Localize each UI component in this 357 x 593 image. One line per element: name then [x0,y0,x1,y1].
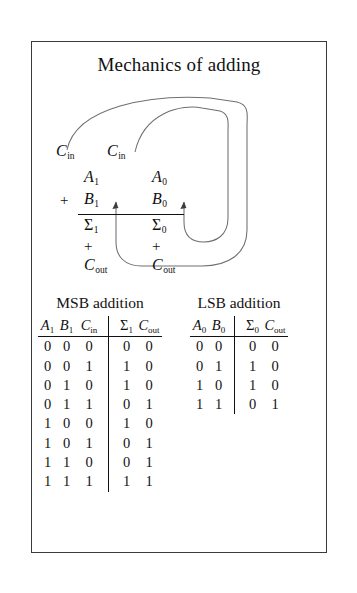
lsb-truth-table: A0 B0 Σ0 Cout 0 [190,316,288,414]
sum-rule-line [78,214,184,215]
cell-cin: 0 [76,414,109,433]
cell-a: 0 [38,376,57,395]
table-row: 1 0 0 1 0 [38,414,162,433]
cell-b: 1 [57,472,76,491]
carry-in-lsb-label: Cin [107,142,125,160]
table-row: 0 0 0 0 [190,337,288,357]
msb-header-cout: Cout [136,316,162,337]
msb-table-body: 0 0 0 0 0 0 0 1 1 0 0 1 [38,337,162,492]
inner-carry-arrow [135,107,228,242]
cell-sum: 0 [109,453,137,472]
msb-header-sum: Σ1 [109,316,137,337]
cell-b: 0 [57,337,76,357]
carry-out-msb-label: Cout [84,256,107,274]
cell-cout: 1 [136,395,162,414]
table-row: 0 0 0 0 0 [38,337,162,357]
cell-b: 0 [57,434,76,453]
operand-b-lsb-label: B0 [152,190,167,208]
cell-a: 0 [38,337,57,357]
msb-header-a: A1 [38,316,57,337]
table-row: 1 1 1 1 1 [38,472,162,491]
carry-plus-lsb: + [152,238,160,255]
figure-title: Mechanics of adding [32,54,326,76]
cell-a: 0 [190,357,209,376]
cell-cin: 0 [76,453,109,472]
msb-table-caption: MSB addition [38,294,162,312]
cell-sum: 0 [235,337,263,357]
msb-header-cin: Cin [76,316,109,337]
operand-b-msb-label: B1 [84,190,99,208]
cell-cin: 1 [76,395,109,414]
lsb-header-sum: Σ0 [235,316,263,337]
msb-header-row: A1 B1 Cin Σ1 Cout [38,316,162,337]
lsb-table-caption: LSB addition [190,294,288,312]
table-row: 1 1 0 0 1 [38,453,162,472]
table-row: 1 0 1 0 1 [38,434,162,453]
cell-sum: 1 [235,376,263,395]
cell-b: 0 [209,376,235,395]
cell-b: 0 [209,337,235,357]
cell-cout: 0 [136,337,162,357]
lsb-header-cout: Cout [262,316,288,337]
cell-a: 1 [38,434,57,453]
carry-out-lsb-label: Cout [152,256,175,274]
table-row: 0 1 1 0 [190,357,288,376]
figure-frame: Mechanics of adding Cin Cin A1 A0 [31,41,327,553]
table-row: 0 1 0 1 0 [38,376,162,395]
table-row: 0 0 1 1 0 [38,357,162,376]
cell-b: 1 [209,357,235,376]
cell-cout: 0 [136,376,162,395]
cell-sum: 0 [109,337,137,357]
cell-a: 1 [38,472,57,491]
cell-b: 1 [57,395,76,414]
cell-cout: 1 [136,453,162,472]
cell-cout: 1 [136,472,162,491]
cell-cin: 0 [76,376,109,395]
cell-b: 1 [57,376,76,395]
cell-a: 0 [38,357,57,376]
lsb-table-header: A0 B0 Σ0 Cout [190,316,288,337]
truth-tables-area: MSB addition A1 B1 Cin Σ1 [32,294,328,549]
lsb-table-body: 0 0 0 0 0 1 1 0 1 0 1 0 [190,337,288,415]
carry-propagation-arrows [32,90,328,295]
msb-header-b: B1 [57,316,76,337]
cell-sum: 0 [235,395,263,414]
table-row: 1 0 1 0 [190,376,288,395]
cell-cin: 0 [76,337,109,357]
lsb-header-a: A0 [190,316,209,337]
cell-sum: 1 [235,357,263,376]
operand-a-msb-label: A1 [84,168,99,186]
sum-lsb-label: Σ0 [152,216,166,234]
cell-b: 1 [209,395,235,414]
cell-cin: 1 [76,472,109,491]
cell-cout: 0 [262,337,288,357]
lsb-header-row: A0 B0 Σ0 Cout [190,316,288,337]
cell-cin: 1 [76,357,109,376]
cell-cout: 0 [262,376,288,395]
cell-b: 1 [57,453,76,472]
cell-a: 1 [38,453,57,472]
mechanics-of-adding-diagram: Cin Cin A1 A0 + B1 B0 Σ1 Σ0 + + [32,90,328,295]
msb-addition-table-block: MSB addition A1 B1 Cin Σ1 [38,294,162,492]
cell-cout: 1 [136,434,162,453]
msb-table-header: A1 B1 Cin Σ1 Cout [38,316,162,337]
lsb-header-b: B0 [209,316,235,337]
cell-b: 0 [57,357,76,376]
cell-a: 0 [190,337,209,357]
cell-cout: 0 [262,357,288,376]
cell-sum: 0 [109,395,137,414]
addition-plus-sign: + [60,192,68,209]
cell-a: 1 [38,414,57,433]
cell-sum: 1 [109,472,137,491]
lsb-addition-table-block: LSB addition A0 B0 Σ0 Cout [190,294,288,414]
cell-cout: 1 [262,395,288,414]
sum-msb-label: Σ1 [84,216,98,234]
cell-sum: 1 [109,357,137,376]
cell-cin: 1 [76,434,109,453]
cell-a: 1 [190,376,209,395]
cell-sum: 1 [109,414,137,433]
operand-a-lsb-label: A0 [152,168,167,186]
cell-sum: 1 [109,376,137,395]
cell-cout: 0 [136,414,162,433]
table-row: 0 1 1 0 1 [38,395,162,414]
